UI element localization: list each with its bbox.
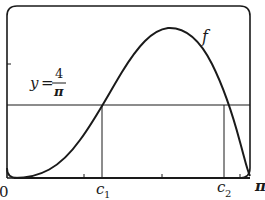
curve-label-f: f <box>201 27 211 46</box>
svg-text:1: 1 <box>104 189 110 200</box>
plot-frame <box>7 6 250 178</box>
x-label-pi: π <box>254 177 265 195</box>
x-label-c2: c 2 <box>217 178 231 199</box>
svg-text:4: 4 <box>55 66 63 81</box>
curve-f <box>14 28 250 178</box>
svg-text:2: 2 <box>225 188 231 199</box>
figure: f y = 4 π 0 c 1 c 2 π <box>0 0 265 200</box>
x-label-c1: c 1 <box>96 180 110 200</box>
svg-text:=: = <box>41 74 54 92</box>
hline-label: y = 4 π <box>29 66 66 99</box>
svg-text:π: π <box>53 84 64 99</box>
x-label-origin: 0 <box>0 183 9 200</box>
svg-text:y: y <box>29 74 39 92</box>
